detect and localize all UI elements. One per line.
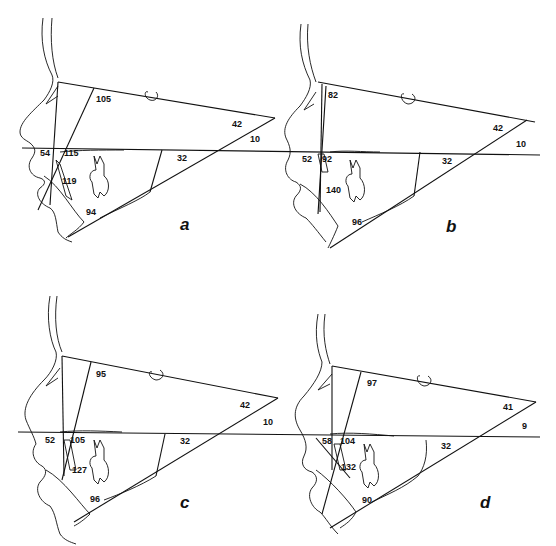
sn-line	[58, 82, 275, 118]
mandible-border	[100, 192, 150, 218]
panel-a: 105 42 10 32 54 115 119 94 a	[20, 18, 275, 242]
angle-label: 96	[90, 494, 100, 504]
sn-line	[62, 356, 278, 398]
angle-label: 119	[62, 176, 77, 186]
soft-tissue-profile	[25, 296, 76, 544]
panel-b: 82 42 10 32 52 92 140 96 b	[285, 24, 535, 248]
angle-label: 10	[516, 139, 526, 149]
angle-label: 115	[64, 148, 79, 158]
angle-label: 94	[86, 207, 96, 217]
soft-tissue-profile-inner	[56, 296, 62, 352]
molar-icon	[90, 156, 109, 198]
angle-label: 42	[240, 400, 250, 410]
angle-label: 32	[441, 441, 451, 451]
angle-label: 92	[322, 154, 332, 164]
panel-d: 97 41 9 32 58 104 132 90 d	[295, 314, 536, 534]
angle-label: 58	[322, 436, 332, 446]
angle-label: 96	[352, 217, 362, 227]
panel-c: 95 42 10 32 52 105 127 96 c	[25, 296, 278, 544]
horizontal-reference-line-top	[22, 148, 540, 155]
panel-label: a	[180, 215, 189, 234]
angle-label: 41	[503, 402, 513, 412]
angle-label: 105	[70, 435, 85, 445]
angle-label: 132	[341, 462, 356, 472]
sella-icon	[145, 92, 157, 101]
sn-line	[332, 366, 536, 402]
angle-label: 32	[442, 156, 452, 166]
angle-label: 10	[263, 417, 273, 427]
panel-label: b	[446, 217, 456, 236]
ramus-line	[414, 152, 420, 196]
molar-icon	[360, 444, 379, 488]
angle-label: 104	[340, 436, 355, 446]
angle-label: 32	[177, 153, 187, 163]
nasal-bone	[46, 368, 60, 386]
nasal-bone	[304, 92, 316, 110]
angle-label: 52	[302, 154, 312, 164]
angle-label: 32	[180, 436, 190, 446]
cephalometric-figure: 105 42 10 32 54 115 119 94 a 82 42 10 32…	[0, 0, 556, 546]
angle-label: 10	[250, 134, 260, 144]
soft-tissue-profile-inner	[307, 24, 316, 82]
sn-line	[318, 82, 535, 122]
horizontal-reference-line-bottom	[18, 432, 540, 437]
mandible-border	[362, 196, 414, 222]
angle-label: 90	[362, 495, 372, 505]
molar-icon	[90, 440, 109, 484]
angle-label: 42	[493, 123, 503, 133]
angle-label: 82	[328, 90, 338, 100]
angle-label: 97	[367, 378, 377, 388]
angle-label: 9	[522, 421, 527, 431]
angle-label: 127	[72, 465, 87, 475]
angle-label: 52	[45, 435, 55, 445]
soft-tissue-profile-inner	[51, 18, 58, 78]
panel-label: c	[180, 493, 190, 512]
chin-contour	[316, 470, 356, 528]
angle-label: 42	[232, 119, 242, 129]
angle-label: 95	[96, 369, 106, 379]
nasal-bone	[318, 374, 332, 390]
palatal-contour	[60, 431, 122, 432]
facial-line	[62, 356, 64, 476]
mandibular-plane	[68, 118, 275, 237]
incisor-axis-line	[62, 362, 91, 480]
mandibular-plane	[330, 402, 536, 528]
panel-label: d	[480, 493, 491, 512]
chin-contour	[46, 470, 90, 526]
mandibular-plane	[330, 120, 527, 248]
angle-label: 105	[96, 94, 111, 104]
angle-label: 140	[326, 185, 341, 195]
molar-icon	[346, 160, 365, 202]
soft-tissue-profile	[20, 18, 72, 242]
ramus-line	[418, 440, 427, 476]
ramus-line	[150, 150, 162, 192]
soft-tissue-profile-inner	[324, 314, 330, 364]
angle-label: 54	[40, 148, 50, 158]
